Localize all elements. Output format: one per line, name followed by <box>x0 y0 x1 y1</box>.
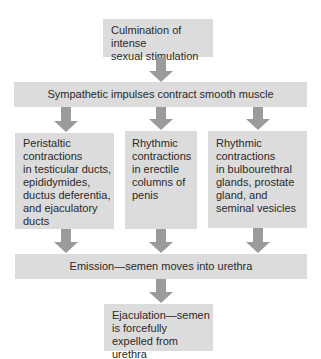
sympathetic-impulses-bar: Sympathetic impulses contract smooth mus… <box>14 82 307 107</box>
glandular-contractions-box: Rhythmic contractions in bulbourethral g… <box>208 131 307 228</box>
column-3-line: seminal vesicles <box>216 202 307 215</box>
column-1-line: contractions <box>23 150 114 163</box>
culmination-box: Culmination of intense sexual stimulatio… <box>103 19 213 57</box>
column-2-line: penis <box>132 189 197 202</box>
emission-label: Emission—semen moves into urethra <box>70 260 253 273</box>
column-3-line: glands, prostate <box>216 176 307 189</box>
arrow-down-icon <box>149 107 173 131</box>
arrow-down-icon <box>149 57 173 82</box>
column-1-line: Peristaltic <box>23 137 114 150</box>
column-2-line: Rhythmic <box>132 137 197 150</box>
peristaltic-contractions-box: Peristaltic contractions in testicular d… <box>15 133 114 229</box>
column-2-line: contractions <box>132 150 197 163</box>
arrow-down-icon <box>246 228 270 254</box>
column-1-line: epididymides, <box>23 176 114 189</box>
ejaculation-line-2: is forcefully <box>112 322 213 335</box>
column-3-line: in bulbourethral <box>216 163 307 176</box>
column-1-line: ductus deferentia, <box>23 189 114 202</box>
column-1-line: and ejaculatory <box>23 202 114 215</box>
arrow-down-icon <box>246 107 270 131</box>
ejaculation-box: Ejaculation—semen is forcefully expelled… <box>104 304 213 351</box>
column-3-line: gland, and <box>216 189 307 202</box>
ejaculation-line-3: expelled from urethra <box>112 335 213 359</box>
column-1-line: in testicular ducts, <box>23 163 114 176</box>
column-3-line: Rhythmic <box>216 137 307 150</box>
arrow-down-icon <box>149 279 173 304</box>
column-1-line: ducts <box>23 215 114 228</box>
emission-bar: Emission—semen moves into urethra <box>15 254 307 279</box>
sympathetic-label: Sympathetic impulses contract smooth mus… <box>47 88 273 101</box>
arrow-down-icon <box>54 107 78 133</box>
ejaculation-line-1: Ejaculation—semen <box>112 309 213 322</box>
arrow-down-icon <box>54 229 78 254</box>
culmination-line-1: Culmination of intense <box>111 24 213 50</box>
column-2-line: in erectile <box>132 163 197 176</box>
erectile-contractions-box: Rhythmic contractions in erectile column… <box>125 131 197 229</box>
column-3-line: contractions <box>216 150 307 163</box>
column-2-line: columns of <box>132 176 197 189</box>
arrow-down-icon <box>149 229 173 254</box>
